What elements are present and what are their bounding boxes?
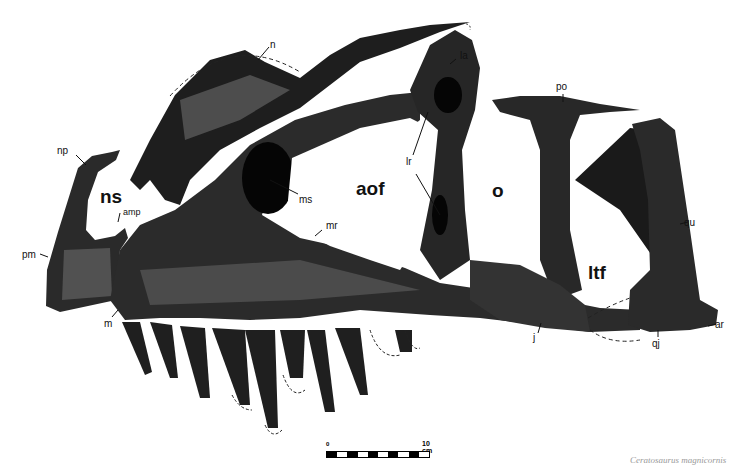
label-lateral-temporal-fenestra: ltf <box>588 263 606 282</box>
species-caption: Ceratosaurus magnicornis <box>630 455 726 465</box>
label-lacrimal-recess: lr <box>406 157 412 167</box>
label-quadratojugal: qj <box>652 339 660 349</box>
label-narial-space: ns <box>100 187 122 206</box>
label-nasal: n <box>270 40 276 50</box>
label-antorbital-fenestra: aof <box>356 179 385 198</box>
label-orbit: o <box>492 181 504 200</box>
label-maxilla: m <box>104 319 112 329</box>
scale-start-label: 0 <box>326 441 329 447</box>
scale-bar-graphic <box>326 451 430 458</box>
label-postorbital: po <box>556 82 567 92</box>
label-nasal-process: np <box>57 146 68 156</box>
label-maxillary-sinus: ms <box>299 195 312 205</box>
label-quadrate: qu <box>684 218 695 228</box>
label-maxillary-ridge: mr <box>326 221 338 231</box>
skull-drawing <box>0 0 737 468</box>
label-anterior-maxillary-process: amp <box>123 208 141 217</box>
maxillary-sinus <box>242 142 294 214</box>
label-jugal: j <box>533 333 535 343</box>
label-articular: ar <box>715 320 724 330</box>
label-premaxilla: pm <box>22 250 36 260</box>
maxillary-teeth <box>122 322 412 428</box>
label-lacrimal: la <box>460 51 468 61</box>
